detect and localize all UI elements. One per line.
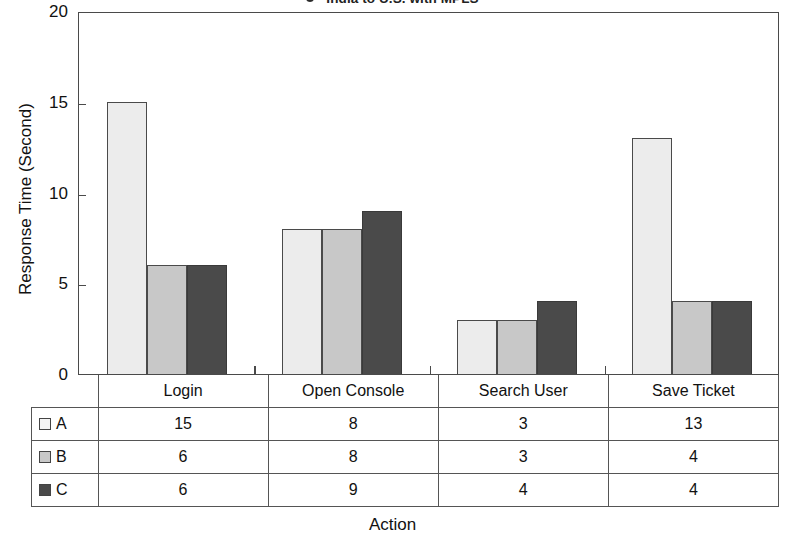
table-row: B6834 <box>32 441 779 474</box>
bar-group-login <box>107 13 227 374</box>
bar-C-search-user <box>537 301 577 374</box>
bar-B-save-ticket <box>672 301 712 374</box>
table-cell: 9 <box>268 474 438 507</box>
x-tickmark-1 <box>254 366 255 375</box>
bar-A-login <box>107 102 147 374</box>
y-tick-label-5: 5 <box>22 275 68 292</box>
bar-group-search-user <box>457 13 577 374</box>
plot-inner <box>79 13 778 374</box>
y-tickmark-5 <box>79 285 86 286</box>
bar-A-search-user <box>457 320 497 374</box>
table-column-header: Search User <box>438 375 608 408</box>
table-cell: 6 <box>98 474 268 507</box>
table-row: A158313 <box>32 408 779 441</box>
table-cell: 15 <box>98 408 268 441</box>
table-header-key-cell <box>32 375 99 408</box>
data-table-body: LoginOpen ConsoleSearch UserSave TicketA… <box>32 375 779 507</box>
data-table: LoginOpen ConsoleSearch UserSave TicketA… <box>31 375 779 507</box>
x-tickmark-3 <box>605 366 606 375</box>
y-tick-label-20: 20 <box>22 3 68 20</box>
table-cell: 3 <box>438 408 608 441</box>
x-tickmark-2 <box>430 366 431 375</box>
table-cell: 13 <box>608 408 778 441</box>
table-legend-key-A: A <box>32 408 99 441</box>
table-cell: 4 <box>608 474 778 507</box>
bar-C-open-console <box>362 211 402 374</box>
chart-title-text: India to U.S. with MPLS <box>326 0 478 6</box>
chart-figure: India to U.S. with MPLS Response Time (S… <box>0 0 785 546</box>
table-cell: 3 <box>438 441 608 474</box>
table-row: C6944 <box>32 474 779 507</box>
x-axis-title: Action <box>0 515 785 535</box>
legend-key-label: C <box>56 481 68 498</box>
bar-A-save-ticket <box>632 138 672 374</box>
legend-swatch-icon-C <box>39 484 51 496</box>
y-tick-label-15: 15 <box>22 94 68 111</box>
table-column-header: Open Console <box>268 375 438 408</box>
legend-key-label: B <box>56 448 67 465</box>
table-column-header: Save Ticket <box>608 375 778 408</box>
table-column-header: Login <box>98 375 268 408</box>
table-cell: 4 <box>438 474 608 507</box>
bar-B-open-console <box>322 229 362 374</box>
legend-swatch-icon-A <box>39 418 51 430</box>
table-cell: 8 <box>268 441 438 474</box>
plot-area <box>78 12 779 375</box>
table-cell: 6 <box>98 441 268 474</box>
table-header-row: LoginOpen ConsoleSearch UserSave Ticket <box>32 375 779 408</box>
bar-A-open-console <box>282 229 322 374</box>
chart-top-caption: India to U.S. with MPLS <box>0 0 785 7</box>
bar-group-open-console <box>282 13 402 374</box>
bar-B-search-user <box>497 320 537 374</box>
bar-C-login <box>187 265 227 374</box>
legend-key-label: A <box>56 415 67 432</box>
bar-group-save-ticket <box>632 13 752 374</box>
y-tick-label-10: 10 <box>22 185 68 202</box>
bar-B-login <box>147 265 187 374</box>
legend-dot-icon <box>306 0 314 2</box>
y-tickmark-15 <box>79 104 86 105</box>
y-tickmark-10 <box>79 195 86 196</box>
table-legend-key-B: B <box>32 441 99 474</box>
table-cell: 4 <box>608 441 778 474</box>
table-legend-key-C: C <box>32 474 99 507</box>
legend-swatch-icon-B <box>39 451 51 463</box>
table-cell: 8 <box>268 408 438 441</box>
bar-C-save-ticket <box>712 301 752 374</box>
